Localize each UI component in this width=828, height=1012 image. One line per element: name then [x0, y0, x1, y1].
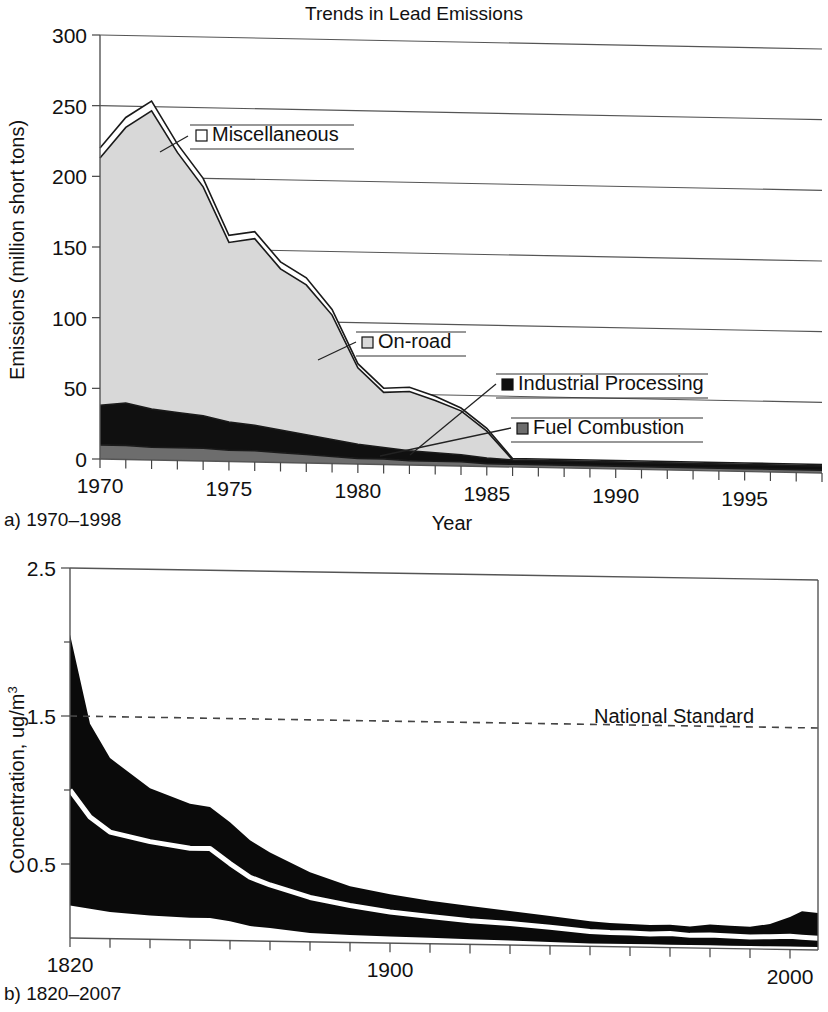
lead-emissions-figure: Trends in Lead Emissions 197019751980198… — [0, 0, 828, 1012]
b-ytick-label-0.5: 0.5 — [27, 853, 56, 876]
panel-a-title: Trends in Lead Emissions — [305, 3, 523, 24]
panel-a-x-axis-title: Year — [432, 512, 473, 534]
national-standard-label: National Standard — [594, 705, 754, 727]
xtick-label-1990: 1990 — [592, 484, 639, 507]
figure-canvas: Trends in Lead Emissions 197019751980198… — [0, 0, 828, 1012]
legend-swatch-miscellaneous — [196, 130, 207, 141]
xtick-label-1985: 1985 — [463, 482, 510, 505]
b-xtick-label-1900: 1900 — [367, 958, 414, 981]
xtick-label-1970: 1970 — [77, 474, 124, 497]
b-xtick-label-1820: 1820 — [47, 953, 94, 976]
legend-label-miscellaneous: Miscellaneous — [212, 123, 339, 145]
panel-b-caption: b) 1820–2007 — [4, 983, 121, 1004]
legend-label-industrial-processing: Industrial Processing — [518, 372, 704, 394]
b-ytick-label-2.5: 2.5 — [27, 557, 56, 580]
panel-a-caption: a) 1970–1998 — [4, 509, 121, 530]
b-ytick-label-1.5: 1.5 — [27, 705, 56, 728]
xtick-label-1980: 1980 — [334, 479, 381, 502]
panel-b-y-axis-title-main: Concentration, ug/m3 — [5, 686, 28, 873]
ytick-label-300: 300 — [52, 24, 87, 47]
legend-label-on-road: On-road — [378, 330, 451, 352]
legend-label-fuel-combustion: Fuel Combustion — [533, 416, 684, 438]
ytick-label-50: 50 — [64, 377, 87, 400]
ytick-label-100: 100 — [52, 307, 87, 330]
ytick-label-0: 0 — [75, 448, 87, 471]
panel-b-y-axis-title: Concentration, ug/m3 — [5, 686, 28, 873]
xtick-label-1975: 1975 — [206, 477, 253, 500]
ytick-label-250: 250 — [52, 95, 87, 118]
xtick-label-1995: 1995 — [721, 487, 768, 510]
legend-swatch-fuel-combustion — [517, 423, 528, 434]
legend-swatch-industrial-processing — [502, 379, 513, 390]
b-xtick-label-2000: 2000 — [767, 965, 814, 988]
ytick-label-150: 150 — [52, 236, 87, 259]
legend-swatch-on-road — [362, 337, 373, 348]
ytick-label-200: 200 — [52, 165, 87, 188]
panel-a-y-axis-title: Emissions (million short tons) — [6, 120, 28, 380]
